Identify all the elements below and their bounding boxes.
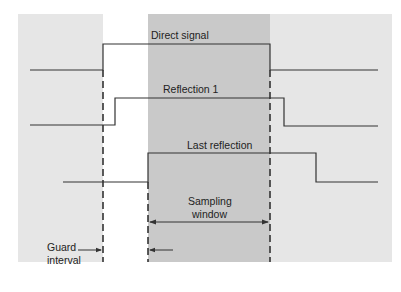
direct-signal-label: Direct signal bbox=[151, 29, 209, 41]
ofdm-guard-interval-diagram: Direct signal Reflection 1 Last reflecti… bbox=[0, 0, 401, 292]
guard-interval-label-line1: Guard bbox=[47, 241, 76, 253]
left-guard-band bbox=[18, 14, 103, 262]
guard-interval-label-line2: interval bbox=[47, 254, 81, 266]
sampling-window-region bbox=[148, 14, 270, 262]
right-band bbox=[270, 14, 392, 262]
sampling-window-label-line2: window bbox=[191, 208, 227, 220]
reflection-1-label: Reflection 1 bbox=[163, 83, 219, 95]
last-reflection-label: Last reflection bbox=[187, 139, 253, 151]
sampling-window-label-line1: Sampling bbox=[188, 195, 232, 207]
